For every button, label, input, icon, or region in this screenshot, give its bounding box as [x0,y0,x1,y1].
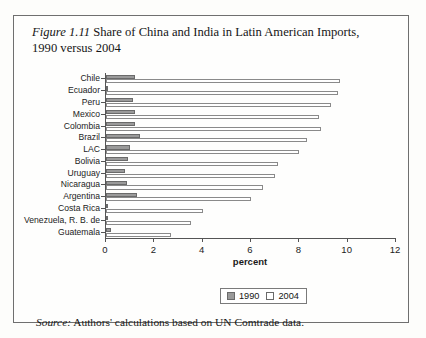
x-tick-label: 4 [199,244,204,255]
category-label: Colombia [64,121,100,133]
bar-1990 [106,86,108,90]
bar-2004 [106,103,331,107]
bar-row: Argentina [105,191,395,203]
legend-item-1990: 1990 [227,291,259,301]
bar-2004 [106,209,203,213]
bar-row: Peru [105,97,395,109]
y-tick [101,102,105,103]
bar-1990 [106,169,125,173]
source-label: Source: [36,316,71,328]
bar-2004 [106,162,278,166]
legend-item-2004: 2004 [266,291,298,301]
y-tick [101,149,105,150]
legend-swatch [266,292,274,300]
category-label: Uruguay [68,168,100,180]
y-tick [101,208,105,209]
bar-row: Chile [105,73,395,85]
category-label: Brazil [79,132,101,144]
x-tick [153,238,154,242]
source-text: Authors' calculations based on UN Comtra… [71,316,304,328]
bar-row: Brazil [105,132,395,144]
category-label: Guatemala [58,227,100,239]
x-tick [250,238,251,242]
category-label: Bolivia [75,156,100,168]
category-label: Costa Rica [58,203,100,215]
bar-2004 [106,150,299,154]
bar-1990 [106,134,140,138]
y-tick [101,220,105,221]
bar-row: Costa Rica [105,203,395,215]
bar-2004 [106,127,321,131]
bar-row: Uruguay [105,168,395,180]
bar-1990 [106,216,108,220]
legend-label: 2004 [278,291,298,301]
bar-2004 [106,185,263,189]
x-tick-label: 6 [247,244,252,255]
chart-plot-area: 024681012 ChileEcuadorPeruMexicoColombia… [105,73,395,239]
x-tick-label: 0 [102,244,107,255]
y-tick [101,90,105,91]
bar-1990 [106,157,128,161]
x-tick [298,238,299,242]
category-label: Chile [80,73,100,85]
bar-row: Bolivia [105,156,395,168]
y-tick [101,196,105,197]
y-tick [101,184,105,185]
y-tick [101,126,105,127]
category-label: Argentina [63,191,100,203]
category-label: Venezuela, R. B. de [24,215,100,227]
y-tick [101,161,105,162]
y-tick [101,137,105,138]
x-axis-label: percent [105,256,395,267]
x-tick [105,238,106,242]
bar-2004 [106,174,275,178]
y-tick [101,232,105,233]
x-tick [347,238,348,242]
bar-1990 [106,110,135,114]
figure-page: Figure 1.11 Share of China and India in … [13,15,409,323]
bar-1990 [106,228,111,232]
y-tick [101,78,105,79]
bar-row: Mexico [105,109,395,121]
bar-row: Nicaragua [105,179,395,191]
x-tick [202,238,203,242]
bar-row: Guatemala [105,227,395,239]
category-label: Ecuador [68,85,100,97]
bar-2004 [106,138,307,142]
bar-row: Ecuador [105,85,395,97]
bar-2004 [106,79,340,83]
x-tick-label: 12 [390,244,401,255]
bar-2004 [106,115,319,119]
bar-1990 [106,204,108,208]
bar-1990 [106,75,135,79]
figure-title: Figure 1.11 Share of China and India in … [32,25,387,56]
y-tick [101,114,105,115]
bar-2004 [106,233,171,237]
x-tick-label: 2 [151,244,156,255]
x-tick-label: 8 [296,244,301,255]
chart-legend: 19902004 [220,288,307,304]
legend-label: 1990 [239,291,259,301]
category-label: Mexico [73,109,100,121]
category-label: LAC [83,144,100,156]
bar-1990 [106,181,127,185]
bar-row: Venezuela, R. B. de [105,215,395,227]
category-label: Peru [82,97,100,109]
category-label: Nicaragua [61,179,100,191]
y-tick [101,173,105,174]
bar-1990 [106,193,137,197]
bar-2004 [106,221,191,225]
bar-2004 [106,197,251,201]
bar-1990 [106,145,130,149]
bar-row: LAC [105,144,395,156]
bar-1990 [106,122,135,126]
x-tick [395,238,396,242]
x-tick-label: 10 [341,244,352,255]
source-note: Source: Authors' calculations based on U… [36,316,304,328]
legend-swatch [227,292,235,300]
bar-1990 [106,98,133,102]
bar-row: Colombia [105,121,395,133]
figure-number: Figure 1.11 [32,25,90,39]
bar-2004 [106,91,338,95]
